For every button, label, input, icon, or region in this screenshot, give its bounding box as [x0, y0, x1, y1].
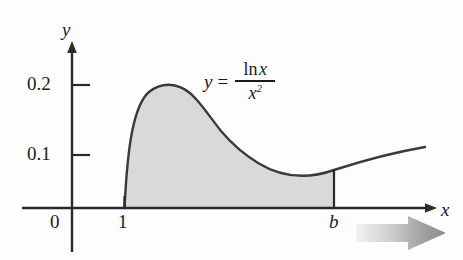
y-tick-label-0.1: 0.1: [27, 144, 51, 163]
numerator-variable: x: [259, 59, 267, 79]
y-tick-label-0.2: 0.2: [27, 74, 51, 93]
equation-fraction: ln x x2: [235, 60, 275, 103]
x-axis-label: x: [441, 200, 449, 219]
x-tick-label-b: b: [329, 212, 339, 231]
equation-lhs: y: [204, 72, 212, 91]
x-axis-arrowhead: [425, 203, 437, 213]
function-plot-figure: y x 0.2 0.1 0 1 b y = ln x x2: [0, 0, 463, 260]
y-axis-arrowhead: [67, 41, 77, 53]
equation-relation: =: [217, 72, 230, 91]
natural-log-operator: ln: [243, 59, 257, 79]
curve-equation-annotation: y = ln x x2: [204, 60, 275, 103]
x-tick-label-1: 1: [118, 212, 128, 231]
equation-denominator: x2: [244, 82, 266, 103]
y-axis-label: y: [62, 20, 70, 39]
equation-numerator: ln x: [239, 60, 271, 80]
b-increasing-arrow: [356, 216, 446, 250]
origin-label: 0: [50, 212, 60, 231]
denominator-exponent: 2: [256, 82, 262, 94]
